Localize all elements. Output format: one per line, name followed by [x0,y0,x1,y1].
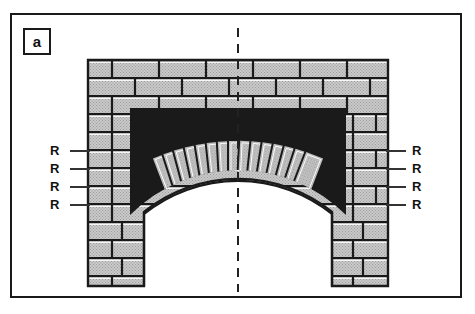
figure-container: R R R R R R R R a [0,0,475,314]
panel-label-a: a [23,28,51,55]
r-label-right-4: R [412,198,421,211]
r-label-right-3: R [412,180,421,193]
r-label-right-1: R [412,144,421,157]
r-label-left-3: R [50,180,59,193]
r-label-left-2: R [50,162,59,175]
masonry-arch-diagram [0,0,475,314]
r-label-left-1: R [50,144,59,157]
r-label-left-4: R [50,198,59,211]
r-label-right-2: R [412,162,421,175]
